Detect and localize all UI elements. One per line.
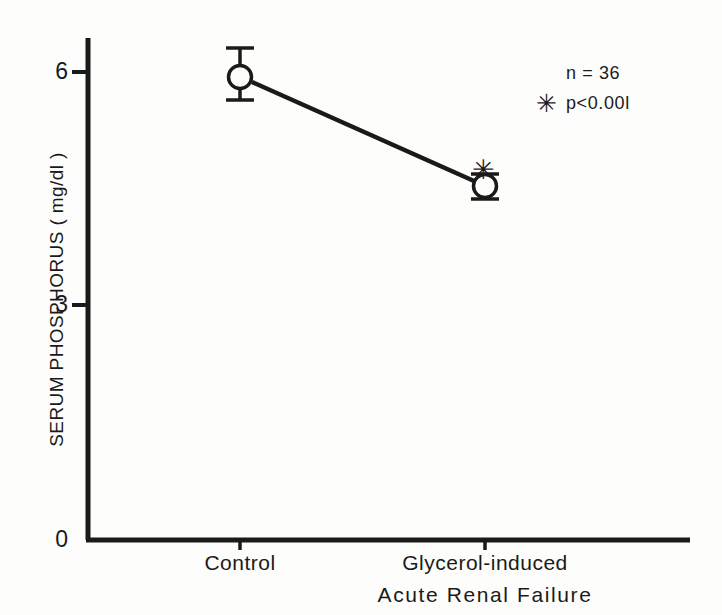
x-axis-label-glycerol: Glycerol-induced Acute Renal Failure	[370, 552, 600, 605]
figure-container: 6 3 0 SERUM PHOSPHORUS ( mg/dl ) Control…	[0, 0, 722, 615]
y-tick-label-0: 0	[28, 528, 68, 551]
annotation-sample-size: n = 36	[536, 58, 630, 88]
y-axis-title: SERUM PHOSPHORUS ( mg/dl )	[47, 90, 66, 510]
annotation-significance-text: p<0.00l	[566, 93, 630, 114]
annotation-block: n = 36 ✳ p<0.00l	[536, 58, 630, 118]
y-tick-label-6: 6	[28, 60, 68, 83]
data-point-control	[229, 66, 252, 89]
x-axis-label-glycerol-line1: Glycerol-induced	[402, 551, 568, 574]
data-series-line	[252, 82, 474, 181]
asterisk-icon: ✳	[536, 91, 566, 116]
x-axis-label-glycerol-line2: Acute Renal Failure	[370, 584, 600, 605]
annotation-sample-size-text: n = 36	[566, 63, 620, 84]
significance-star-icon: ✳	[472, 157, 495, 184]
annotation-significance: ✳ p<0.00l	[536, 88, 630, 118]
x-axis-label-control: Control	[170, 552, 310, 573]
